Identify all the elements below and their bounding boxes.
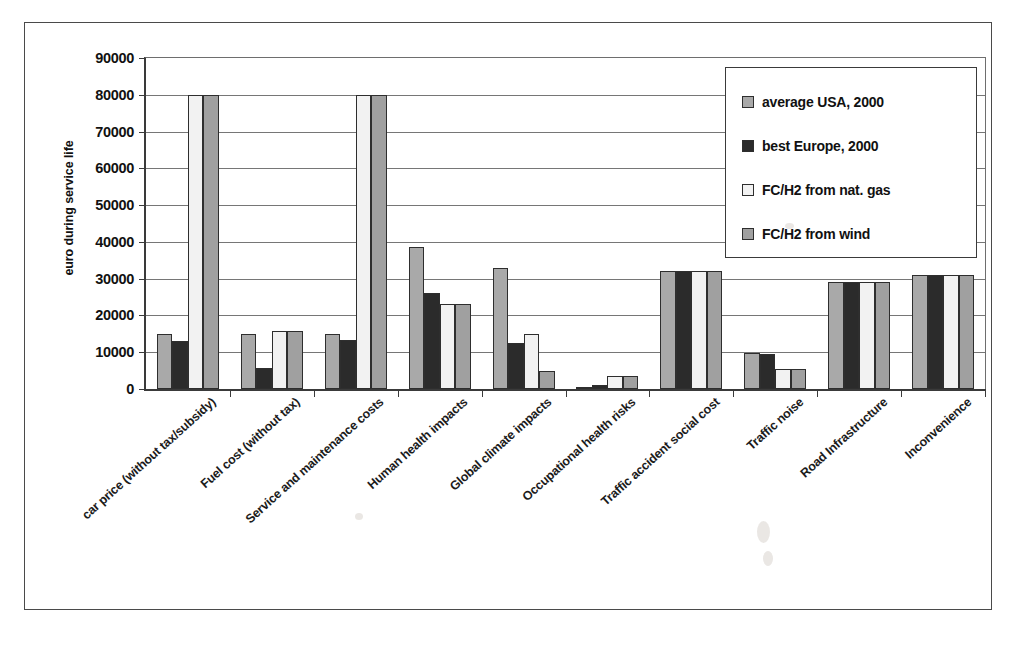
bar [203,95,219,389]
bar [539,371,555,389]
y-axis-tick [139,205,146,206]
legend-label: average USA, 2000 [762,94,884,110]
bar [188,95,204,389]
legend-item: average USA, 2000 [742,80,966,124]
bar [875,282,891,389]
legend-item: FC/H2 from wind [742,212,966,256]
bar [844,282,860,389]
y-axis-tick-label: 60000 [95,160,134,176]
bar [172,341,188,389]
bar [607,376,623,389]
legend-label: FC/H2 from nat. gas [762,182,890,198]
legend-swatch-icon [742,96,754,108]
y-axis-tick [139,168,146,169]
bar [676,271,692,389]
y-axis-tick-label: 20000 [95,307,134,323]
y-axis-tick-label: 50000 [95,197,134,213]
y-axis-tick-label: 90000 [95,50,134,66]
y-axis-tick-label: 70000 [95,124,134,140]
bar [256,368,272,389]
bar [576,387,592,389]
legend-item: FC/H2 from nat. gas [742,168,966,212]
legend-swatch-icon [742,140,754,152]
scan-artifact [355,513,363,520]
bar [157,334,173,389]
y-axis-tick-label: 80000 [95,87,134,103]
bar [791,369,807,389]
bar [859,282,875,389]
y-axis-tick [139,132,146,133]
bar-group [146,58,230,389]
bar [371,95,387,389]
y-axis-tick-label: 30000 [95,271,134,287]
bar [775,369,791,389]
y-axis-tick [139,389,146,390]
scan-artifact [757,521,770,543]
legend-swatch-icon [742,184,754,196]
legend-label: best Europe, 2000 [762,138,878,154]
legend-item: best Europe, 2000 [742,124,966,168]
bar [928,275,944,389]
scan-artifact [785,223,794,229]
chart-frame: euro during service life 900008000070000… [24,22,992,610]
y-axis-tick [139,58,146,59]
y-axis-tick-label: 0 [126,381,134,397]
chart-legend: average USA, 2000 best Europe, 2000 FC/H… [725,67,977,258]
scan-artifact [763,551,773,566]
legend-swatch-icon [742,228,754,240]
y-axis-tick-label: 10000 [95,344,134,360]
y-axis-tick [139,315,146,316]
y-axis-tick-label: 40000 [95,234,134,250]
bar [592,385,608,389]
y-axis-title: euro during service life [62,108,76,308]
y-axis-tick [139,242,146,243]
y-axis-tick [139,95,146,96]
legend-label: FC/H2 from wind [762,226,870,242]
x-axis-labels: car price (without tax/subsidy)Fuel cost… [144,395,986,610]
y-axis-tick [139,352,146,353]
y-axis-tick [139,279,146,280]
